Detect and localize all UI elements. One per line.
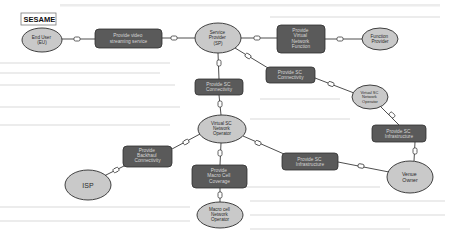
connector-icon <box>218 150 222 156</box>
actor-venue-owner[interactable]: Venue Owner <box>387 161 433 193</box>
actor-service-provider[interactable]: Service Provider (SP) <box>195 23 241 53</box>
svg-text:Provide Virtual Ne: Provide Virtual Network Function <box>292 28 311 50</box>
connector-icon <box>218 192 222 198</box>
actor-macro-cell-network-operator[interactable]: Macro cell Network Operator <box>197 202 243 228</box>
svg-text:ISP: ISP <box>82 182 94 189</box>
connector-icon <box>244 53 251 60</box>
actor-virtual-sc-network-operator-center[interactable]: Virtual SC Network Operator <box>198 115 246 143</box>
sesame-role-diagram: SESAME End User (EU) Service Provider (S… <box>0 0 450 240</box>
service-provide-sc-infrastructure-right[interactable]: Provide SC Infrastructure <box>372 125 426 142</box>
edge-sp-sc-connectivity-right <box>235 48 268 68</box>
connector-icon <box>327 81 334 87</box>
connector-icon <box>358 163 365 168</box>
actor-end-user[interactable]: End User (EU) <box>22 28 62 52</box>
sesame-label-text: SESAME <box>24 15 56 24</box>
connector-icon <box>171 36 177 40</box>
svg-text:Virtual SC Network: Virtual SC Network Operator <box>360 90 379 104</box>
service-provide-virtual-network-function[interactable]: Provide Virtual Network Function <box>277 25 325 53</box>
connector-icon <box>217 60 221 66</box>
actor-function-provider[interactable]: Function Provider <box>362 28 398 50</box>
svg-text:Provide SC Infrastructur: Provide SC Infrastructure <box>296 157 325 167</box>
connector-icon <box>413 148 417 154</box>
svg-text:Provide SC Connectivity: Provide SC Connectivity <box>206 82 233 92</box>
connector-icon <box>254 36 260 40</box>
service-provide-sc-connectivity-left[interactable]: Provide SC Connectivity <box>195 79 243 95</box>
actor-virtual-sc-network-operator-right[interactable]: Virtual SC Network Operator <box>352 85 388 109</box>
edge-vsc-center-sc-infra-mid <box>243 136 284 154</box>
service-provide-video-streaming[interactable]: Provide video streaming service <box>95 29 162 48</box>
connector-icon <box>74 37 80 41</box>
svg-text:Provide video streaming: Provide video streaming service <box>110 33 148 44</box>
svg-text:Function Provider: Function Provider <box>371 34 390 44</box>
svg-text:Provide SC Infrastructur: Provide SC Infrastructure <box>385 129 414 139</box>
connector-icon <box>254 140 261 146</box>
connector-icon <box>112 167 119 173</box>
service-provide-sc-infrastructure-mid[interactable]: Provide SC Infrastructure <box>282 153 338 170</box>
connector-icon <box>388 111 395 118</box>
service-provide-backhaul-connectivity[interactable]: Provide Backhaul Connectivity <box>123 146 172 167</box>
service-provide-sc-connectivity-right[interactable]: Provide SC Connectivity <box>266 67 315 83</box>
svg-text:Provide Macro Cell: Provide Macro Cell Coverage <box>207 168 231 184</box>
svg-text:Venue Owner: Venue Owner <box>402 171 418 183</box>
sesame-label: SESAME <box>21 13 56 25</box>
connector-icon <box>182 139 189 145</box>
connector-icon <box>218 101 222 107</box>
connector-icon <box>337 37 343 41</box>
service-provide-macro-cell-coverage[interactable]: Provide Macro Cell Coverage <box>192 165 247 188</box>
svg-text:Virtual SC Network: Virtual SC Network Operator <box>211 121 233 136</box>
actor-isp[interactable]: ISP <box>65 170 111 200</box>
edge-sc-connectivity-right-vsc-right <box>315 78 354 93</box>
svg-text:Macro cell Network: Macro cell Network Operator <box>209 207 231 222</box>
svg-text:Provide SC Connectivity: Provide SC Connectivity <box>277 70 304 80</box>
